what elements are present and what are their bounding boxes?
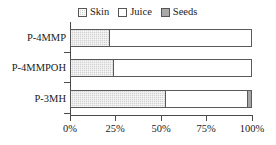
y-axis-label-p4mmp: P-4MMP — [0, 33, 66, 44]
x-axis-tick-label-0: 0% — [63, 124, 77, 135]
bar-segment-juice — [110, 29, 252, 47]
skin-swatch-icon — [78, 8, 87, 17]
x-axis-tick-label-25: 25% — [105, 124, 124, 135]
table-row — [70, 90, 252, 108]
x-axis-tick-75 — [206, 116, 207, 121]
legend-item-skin: Skin — [78, 7, 109, 18]
legend-label-juice: Juice — [130, 7, 152, 18]
juice-swatch-icon — [118, 8, 127, 17]
legend-label-skin: Skin — [90, 7, 109, 18]
y-axis-tick-3 — [64, 113, 70, 114]
stacked-bar-chart: Skin Juice Seeds P-4MMP P-4MMPOH P-3MH — [0, 0, 276, 145]
seeds-swatch-icon — [161, 8, 170, 17]
bar-segment-skin — [70, 59, 114, 77]
x-axis-tick-label-100: 100% — [240, 124, 265, 135]
x-axis-tick-0 — [70, 116, 71, 121]
bar-segment-juice — [166, 90, 248, 108]
bar-segment-skin — [70, 29, 110, 47]
table-row — [70, 29, 252, 47]
x-axis-tick-label-50: 50% — [151, 124, 170, 135]
bar-segment-skin — [70, 90, 166, 108]
legend-label-seeds: Seeds — [173, 7, 198, 18]
legend-item-juice: Juice — [118, 7, 152, 18]
bar-segment-juice — [114, 59, 252, 77]
y-axis-label-p3mh: P-3MH — [0, 94, 66, 105]
x-axis-tick-50 — [161, 116, 162, 121]
x-axis-tick-label-75: 75% — [196, 124, 215, 135]
x-axis-tick-100 — [252, 116, 253, 121]
plot-area — [70, 26, 252, 112]
y-axis-label-p4mmpoh: P-4MMPOH — [0, 63, 66, 74]
table-row — [70, 59, 252, 77]
chart-legend: Skin Juice Seeds — [78, 7, 197, 18]
x-axis-tick-25 — [115, 116, 116, 121]
bar-segment-seeds — [248, 90, 252, 108]
legend-item-seeds: Seeds — [161, 7, 198, 18]
